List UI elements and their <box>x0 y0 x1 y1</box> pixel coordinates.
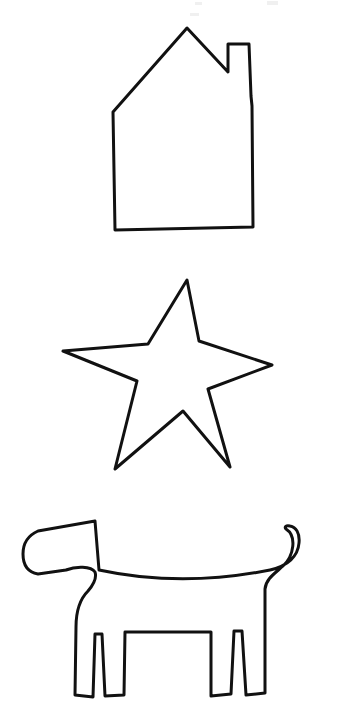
shapes-canvas <box>0 0 341 715</box>
drawing-sheet <box>0 0 341 715</box>
